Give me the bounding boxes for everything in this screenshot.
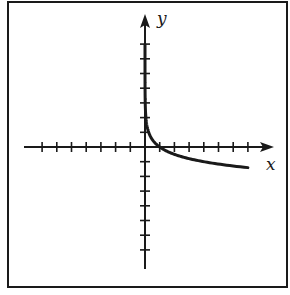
y-axis-label: y [156,8,167,28]
x-axis-label: x [266,154,276,174]
axes [24,14,274,269]
graph-figure: y x [0,0,290,295]
